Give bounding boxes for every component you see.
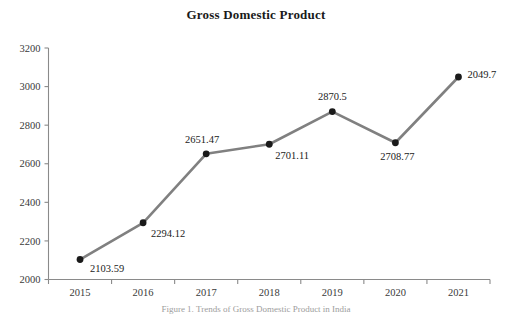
data-point-marker <box>455 74 462 81</box>
data-point-marker <box>392 139 399 146</box>
series-line <box>80 77 458 260</box>
data-point-label: 2294.12 <box>151 228 185 239</box>
data-point-label: 2701.11 <box>275 150 309 161</box>
y-axis-tick-label: 3200 <box>20 43 41 54</box>
y-axis-tick-label: 2400 <box>20 197 41 208</box>
x-axis: 2015201620172018201920202021 <box>49 280 491 298</box>
x-axis-tick-label: 2021 <box>448 287 469 298</box>
x-axis-tick-label: 2019 <box>322 287 343 298</box>
data-point-marker <box>329 108 336 115</box>
data-markers <box>77 74 462 263</box>
x-axis-tick-label: 2018 <box>259 287 280 298</box>
x-axis-tick-label: 2020 <box>385 287 406 298</box>
data-point-label: 2708.77 <box>380 151 414 162</box>
x-axis-tick-label: 2017 <box>196 287 217 298</box>
data-point-marker <box>77 256 84 263</box>
y-axis-tick-label: 3000 <box>20 81 41 92</box>
y-axis-tick-label: 2200 <box>20 236 41 247</box>
figure-caption: Figure 1. Trends of Gross Domestic Produ… <box>0 303 512 314</box>
data-point-label: 2651.47 <box>185 134 219 145</box>
data-point-label: 2870.5 <box>318 91 347 102</box>
chart-container: Gross Domestic Product 20002200240026002… <box>0 0 512 314</box>
data-point-label: 2049.7 <box>467 69 496 80</box>
line-chart-plot: 2000220024002600280030003200 20152016201… <box>0 0 512 314</box>
data-point-label: 2103.59 <box>90 263 124 274</box>
data-point-marker <box>140 219 147 226</box>
x-axis-tick-label: 2016 <box>133 287 154 298</box>
data-series-line <box>80 77 458 260</box>
y-axis-tick-label: 2600 <box>20 158 41 169</box>
y-axis-tick-label: 2000 <box>20 274 41 285</box>
x-axis-tick-label: 2015 <box>70 287 91 298</box>
data-point-marker <box>203 150 210 157</box>
y-axis: 2000220024002600280030003200 <box>20 43 49 286</box>
y-axis-tick-label: 2800 <box>20 120 41 131</box>
data-point-marker <box>266 141 273 148</box>
